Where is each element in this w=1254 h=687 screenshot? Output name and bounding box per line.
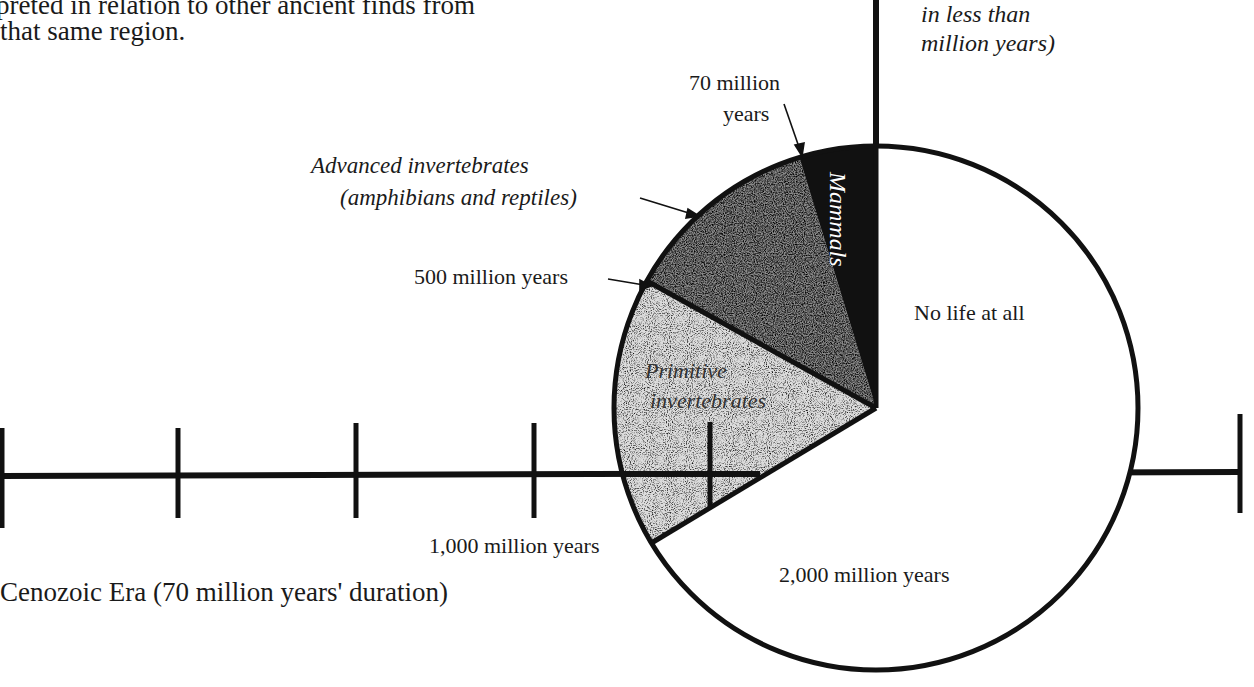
no-life-label: No life at all <box>914 300 1025 326</box>
marker-1000-million: 1,000 million years <box>429 533 599 559</box>
marker-500-million: 500 million years <box>414 264 568 290</box>
note-line-1: in less than <box>921 1 1030 27</box>
advanced-invertebrates-label-1: Advanced invertebrates <box>311 153 529 179</box>
marker-70-million-line-2: years <box>723 101 769 127</box>
advanced-invertebrates-label-2: (amphibians and reptiles) <box>340 185 577 211</box>
primitive-invertebrates-label-1: Primitive <box>645 358 727 384</box>
primitive-invertebrates-label-2: invertebrates <box>650 388 766 414</box>
mammals-label: Mammals <box>825 171 851 267</box>
note-line-2: million years) <box>921 30 1055 56</box>
body-text-line-2: that same region. <box>0 14 185 48</box>
cenozoic-caption: Cenozoic Era (70 million years' duration… <box>0 575 448 609</box>
marker-70-million-line-1: 70 million <box>689 70 780 96</box>
marker-2000-million: 2,000 million years <box>779 562 949 588</box>
